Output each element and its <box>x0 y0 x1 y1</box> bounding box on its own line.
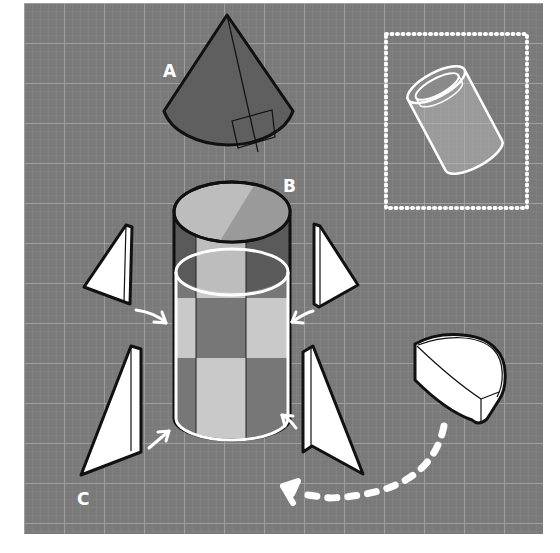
label-b: B <box>283 176 296 196</box>
cylinder-part-b <box>174 182 290 450</box>
label-c: C <box>77 489 89 509</box>
rocket-assembly-diagram: A B <box>0 0 560 553</box>
label-a: A <box>163 61 177 81</box>
